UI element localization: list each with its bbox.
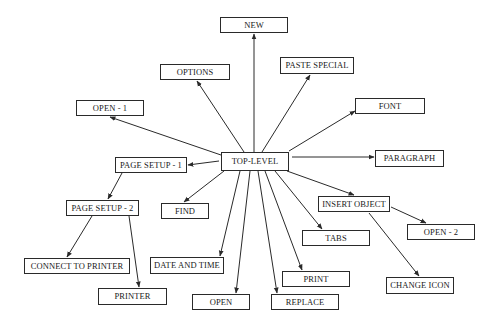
edge-top-level-to-paste-special: [262, 75, 310, 152]
edge-top-level-to-replace: [258, 171, 277, 293]
node-date-and-time: DATE AND TIME: [150, 257, 224, 274]
edge-top-level-to-insert-object: [287, 171, 354, 195]
edge-top-level-to-open: [236, 171, 250, 293]
node-options: OPTIONS: [160, 64, 230, 80]
node-label: NEW: [244, 21, 264, 30]
node-connect-to-printer: CONNECT TO PRINTER: [24, 258, 130, 274]
node-label: TOP-LEVEL: [232, 157, 279, 166]
edge-top-level-to-date-and-time: [220, 171, 240, 256]
node-page-setup-1: PAGE SETUP - 1: [115, 157, 187, 173]
edge-top-level-to-print: [265, 171, 302, 270]
edge-top-level-to-options: [197, 81, 244, 152]
node-replace: REPLACE: [271, 294, 339, 310]
edge-page-setup-2-to-printer: [129, 216, 139, 287]
node-open-2: OPEN - 2: [407, 224, 475, 240]
node-label: OPEN: [210, 298, 233, 307]
node-label: PRINT: [303, 275, 328, 284]
node-tabs: TABS: [302, 230, 370, 246]
node-label: CHANGE ICON: [390, 281, 449, 290]
node-label: PARAGRAPH: [384, 154, 436, 163]
node-open-1: OPEN - 1: [76, 100, 144, 116]
node-print: PRINT: [282, 271, 350, 287]
edge-page-setup-1-to-page-setup-2: [108, 173, 122, 199]
node-label: PRINTER: [114, 292, 150, 301]
node-label: FONT: [379, 102, 402, 111]
edge-top-level-to-find: [184, 171, 224, 202]
node-label: OPEN - 1: [93, 104, 127, 113]
edge-top-level-to-page-setup-1: [188, 161, 219, 165]
edge-insert-object-to-open-2: [391, 207, 426, 223]
node-page-setup-2: PAGE SETUP - 2: [66, 200, 139, 216]
node-label: DATE AND TIME: [154, 261, 220, 270]
node-label: PAGE SETUP - 2: [72, 204, 134, 213]
edge-insert-object-to-change-icon: [369, 213, 419, 276]
edge-top-level-to-open-1: [110, 117, 221, 155]
node-label: OPEN - 2: [424, 228, 458, 237]
node-new: NEW: [220, 17, 288, 33]
node-paragraph: PARAGRAPH: [375, 150, 444, 167]
node-open: OPEN: [192, 294, 250, 310]
node-label: CONNECT TO PRINTER: [31, 262, 123, 271]
menu-hierarchy-diagram: NEWOPTIONSPASTE SPECIALOPEN - 1FONTTOP-L…: [0, 0, 498, 331]
node-font: FONT: [355, 98, 425, 114]
node-label: PASTE SPECIAL: [285, 61, 348, 70]
node-find: FIND: [161, 203, 209, 219]
node-label: OPTIONS: [177, 68, 214, 77]
node-label: FIND: [175, 207, 195, 216]
node-top-level: TOP-LEVEL: [221, 152, 289, 171]
node-label: PAGE SETUP - 1: [120, 161, 182, 170]
node-label: INSERT OBJECT: [322, 200, 386, 209]
node-paste-special: PASTE SPECIAL: [280, 57, 354, 74]
edge-top-level-to-tabs: [275, 171, 322, 229]
node-printer: PRINTER: [98, 288, 167, 305]
node-label: TABS: [325, 234, 346, 243]
edge-page-setup-2-to-connect-to-printer: [67, 216, 92, 257]
node-label: REPLACE: [286, 298, 324, 307]
edge-top-level-to-font: [289, 111, 355, 151]
node-insert-object: INSERT OBJECT: [318, 196, 390, 212]
node-change-icon: CHANGE ICON: [386, 277, 454, 294]
